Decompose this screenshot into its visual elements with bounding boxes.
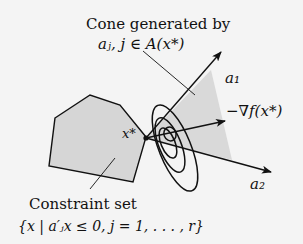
a2-label: a₂ (250, 177, 265, 192)
neg-gradient-label: −∇f(x*) (226, 104, 282, 119)
cone-label-line2: aⱼ, j ∈ A(x*) (98, 37, 184, 52)
optimal-point-label: x* (122, 127, 136, 140)
constraint-label-line1: Constraint set (29, 197, 137, 212)
optimal-point (143, 135, 148, 140)
cone-leader-line (143, 51, 195, 95)
cone-label-line1: Cone generated by (86, 17, 230, 32)
constraint-label-line2: {x | a′ⱼx ≤ 0, j = 1, . . . , r} (18, 219, 204, 233)
a1-label: a₁ (225, 71, 240, 86)
